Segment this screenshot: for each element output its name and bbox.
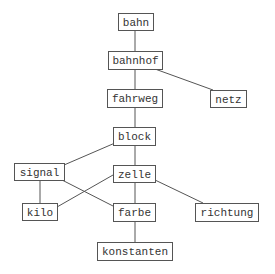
node-label: bahnhof: [112, 55, 158, 67]
node-block: block: [114, 128, 156, 146]
edge-zelle-richtung: [155, 180, 203, 203]
node-richtung: richtung: [196, 204, 259, 222]
node-label: zelle: [118, 169, 151, 181]
node-fahrweg: fahrweg: [108, 90, 163, 108]
node-konstanten: konstanten: [98, 243, 173, 261]
node-zelle: zelle: [114, 166, 156, 183]
node-bahnhof: bahnhof: [109, 52, 163, 70]
node-label: netz: [215, 94, 241, 106]
edge-bahnhof-netz: [155, 69, 213, 90]
node-netz: netz: [211, 91, 247, 108]
node-bahn: bahn: [119, 14, 154, 31]
node-label: konstanten: [102, 246, 168, 258]
node-label: kilo: [27, 207, 53, 219]
node-label: fahrweg: [112, 93, 158, 105]
node-signal: signal: [15, 164, 65, 181]
edge-block-signal: [64, 143, 115, 165]
edge-signal-farbe: [62, 180, 113, 206]
node-label: signal: [20, 167, 60, 179]
node-label: block: [118, 131, 151, 143]
node-label: bahn: [123, 17, 149, 29]
node-label: farbe: [118, 207, 151, 219]
node-farbe: farbe: [114, 204, 156, 222]
dependency-graph: bahnbahnhoffahrwegnetzblocksignalzelleki…: [0, 0, 275, 274]
node-kilo: kilo: [23, 204, 58, 221]
nodes: bahnbahnhoffahrwegnetzblocksignalzelleki…: [15, 14, 259, 261]
node-label: richtung: [201, 207, 254, 219]
